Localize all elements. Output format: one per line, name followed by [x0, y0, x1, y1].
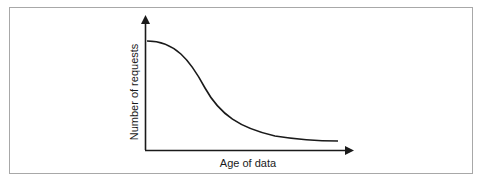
y-axis-label: Number of requests — [128, 43, 140, 140]
y-axis — [141, 15, 150, 150]
decay-curve — [147, 41, 338, 141]
y-axis-arrow-icon — [141, 15, 150, 24]
x-axis — [145, 146, 354, 155]
x-axis-arrow-icon — [345, 146, 354, 155]
chart-canvas: Age of data Number of requests — [0, 0, 484, 181]
x-axis-label: Age of data — [220, 157, 277, 169]
